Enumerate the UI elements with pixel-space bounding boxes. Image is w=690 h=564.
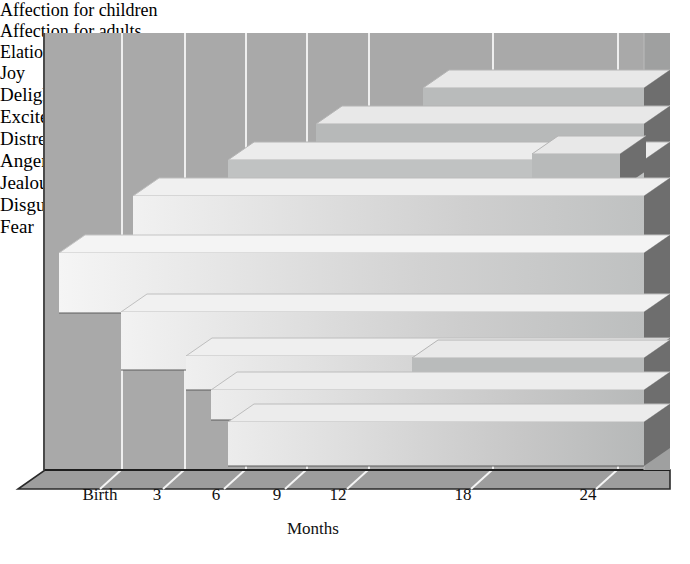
xtick-6: 6 xyxy=(196,485,236,505)
gridline-6 xyxy=(245,33,247,470)
gridline-3 xyxy=(184,33,186,470)
emotional-development-chart: Affection for children Affection for adu… xyxy=(0,0,690,564)
x-axis-title: Months xyxy=(287,519,339,539)
gridline-18 xyxy=(492,33,494,470)
chart-back-wall xyxy=(45,33,670,470)
bar-label-affection-for-children: Affection for children xyxy=(0,0,690,21)
gridline-24 xyxy=(617,33,619,470)
bar-affection-for-children[interactable]: Affection for children xyxy=(0,0,690,21)
xtick-3: 3 xyxy=(137,485,177,505)
xtick-12: 12 xyxy=(315,485,361,505)
chart-left-axis-edge xyxy=(43,33,45,470)
gridline-9 xyxy=(306,33,308,470)
xtick-24: 24 xyxy=(565,485,611,505)
xtick-birth: Birth xyxy=(65,485,135,505)
xtick-18: 18 xyxy=(440,485,486,505)
gridline-12 xyxy=(368,33,370,470)
xtick-9: 9 xyxy=(257,485,297,505)
gridline-birth xyxy=(121,33,123,470)
chart-plot-area: Affection for children Affection for adu… xyxy=(0,0,690,564)
